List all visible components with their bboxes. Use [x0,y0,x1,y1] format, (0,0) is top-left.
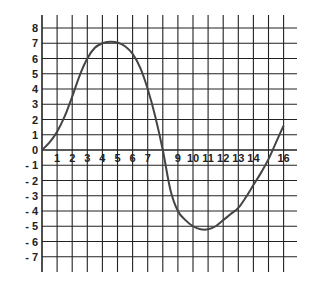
line-chart: 876543210- 1- 2- 3- 4- 5- 6- 7 123456791… [0,0,311,290]
chart-grid [42,15,297,272]
x-tick-label: 2 [69,152,75,164]
y-tick-label: - 6 [25,236,38,248]
y-tick-label: - 4 [25,205,39,217]
x-tick-label: 12 [217,152,229,164]
x-tick-label: 16 [277,152,289,164]
y-tick-label: 1 [32,129,38,141]
x-axis-tick-labels: 12345679101112131416 [54,152,290,164]
x-tick-label: 6 [130,152,136,164]
x-tick-label: 9 [175,152,181,164]
x-tick-label: 11 [202,152,214,164]
x-tick-label: 7 [145,152,151,164]
x-tick-label: 14 [247,152,260,164]
y-tick-label: - 5 [25,220,38,232]
x-tick-label: 3 [84,152,90,164]
y-tick-label: - 7 [25,251,38,263]
y-tick-label: 4 [32,83,39,95]
x-tick-label: 1 [54,152,60,164]
y-tick-label: 5 [32,68,38,80]
y-tick-label: 6 [32,53,38,65]
x-tick-label: 5 [114,152,120,164]
x-tick-label: 10 [187,152,199,164]
y-tick-label: - 1 [25,159,38,171]
y-tick-label: - 2 [25,175,38,187]
y-tick-label: 3 [32,98,38,110]
x-tick-label: 13 [232,152,244,164]
y-tick-label: - 3 [25,190,38,202]
y-tick-label: 0 [32,144,38,156]
y-axis-tick-labels: 876543210- 1- 2- 3- 4- 5- 6- 7 [25,22,39,263]
y-tick-label: 2 [32,114,38,126]
x-tick-label: 4 [99,152,106,164]
y-tick-label: 8 [32,22,38,34]
y-tick-label: 7 [32,37,38,49]
